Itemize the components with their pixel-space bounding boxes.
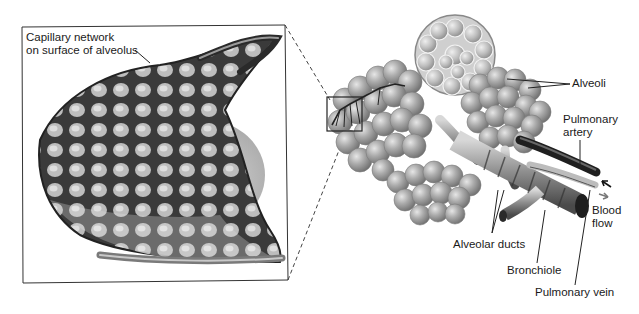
label-bronchiole: Bronchiole [507,264,561,277]
label-blood-flow-line2: flow [592,217,621,230]
label-capillary-line2: on surface of alveolus [26,44,138,57]
label-capillary-network: Capillary network on surface of alveolus [26,31,138,57]
zoom-connector-top [285,25,330,100]
label-capillary-line1: Capillary network [26,31,138,44]
label-pulmonary-artery-line1: Pulmonary [563,113,618,126]
label-pulmonary-vein: Pulmonary vein [535,286,614,299]
label-blood-flow: Blood flow [592,204,621,230]
label-pulmonary-artery-line2: artery [563,126,618,139]
label-pulmonary-artery: Pulmonary artery [563,113,618,139]
label-alveoli: Alveoli [572,77,606,90]
label-blood-flow-line1: Blood [592,204,621,217]
label-alveolar-ducts: Alveolar ducts [453,238,525,251]
inset-capillary-network [22,25,288,283]
lung-alveoli-diagram: Capillary network on surface of alveolus… [0,0,639,314]
zoom-connector-bottom [288,135,345,280]
bronchiole-opening [575,194,589,218]
blood-flow-arrows [599,181,611,199]
